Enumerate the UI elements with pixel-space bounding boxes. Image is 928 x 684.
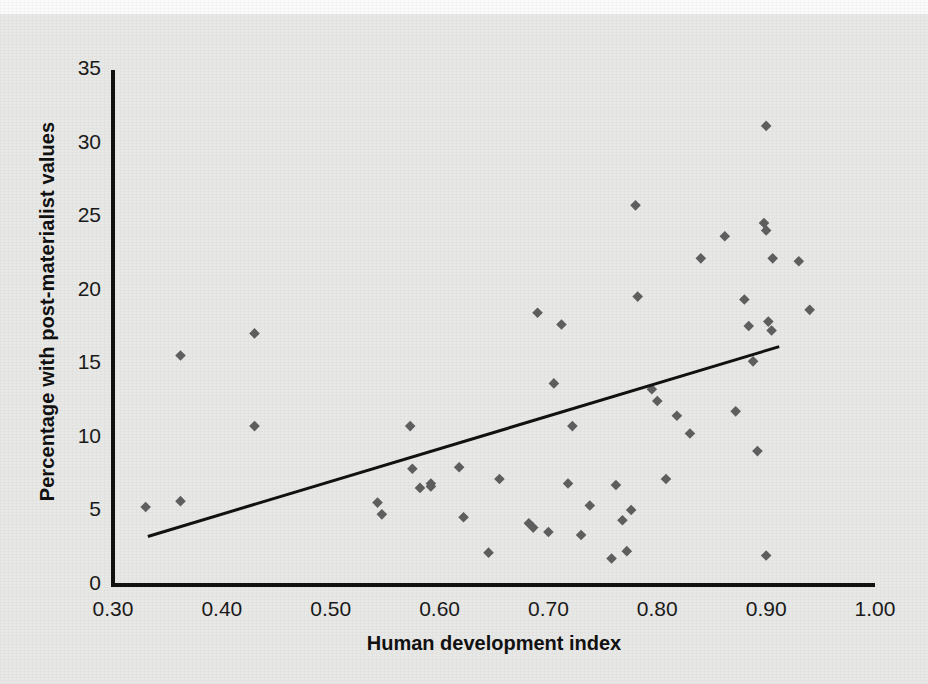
x-tick-label: 0.50: [286, 597, 376, 621]
data-point-marker: [804, 305, 815, 316]
data-point-marker: [652, 396, 663, 407]
data-point-marker: [549, 378, 560, 389]
data-point-marker: [630, 200, 641, 211]
data-point-marker: [696, 253, 707, 264]
x-tick-label: 0.40: [177, 597, 267, 621]
data-point-marker: [249, 421, 260, 432]
trend-line: [148, 347, 779, 537]
data-point-marker: [556, 319, 567, 330]
x-tick-label: 0.90: [721, 597, 811, 621]
data-point-marker: [405, 421, 416, 432]
data-point-marker: [661, 474, 672, 485]
data-points: [140, 121, 815, 564]
data-point-marker: [532, 307, 543, 318]
data-point-marker: [626, 505, 637, 516]
data-point-marker: [632, 291, 643, 302]
x-tick-label: 0.80: [612, 597, 702, 621]
axis-lines: [111, 70, 875, 585]
data-point-marker: [743, 321, 754, 332]
data-point-marker: [611, 480, 622, 491]
x-tick-label: 1.00: [830, 597, 920, 621]
data-point-marker: [175, 496, 186, 507]
scatter-plot-figure: 05101520253035 0.300.400.500.600.700.800…: [0, 0, 928, 684]
y-axis-title: Percentage with post-materialist values: [36, 97, 59, 527]
data-point-marker: [719, 231, 730, 242]
y-tick-label: 35: [41, 56, 101, 80]
data-point-marker: [483, 547, 494, 558]
x-tick-label: 0.30: [68, 597, 158, 621]
data-point-marker: [730, 406, 741, 417]
data-point-marker: [372, 497, 383, 508]
data-point-marker: [767, 253, 778, 264]
trend-line-segment: [148, 347, 779, 537]
data-point-marker: [543, 527, 554, 538]
data-point-marker: [249, 328, 260, 339]
data-point-marker: [672, 410, 683, 421]
data-point-marker: [617, 515, 628, 526]
data-point-marker: [407, 463, 418, 474]
data-point-marker: [622, 546, 633, 557]
data-point-marker: [377, 509, 388, 520]
data-point-marker: [454, 462, 465, 473]
data-point-marker: [175, 350, 186, 361]
data-point-marker: [563, 478, 574, 489]
y-tick-label: 0: [41, 571, 101, 595]
data-point-marker: [794, 256, 805, 267]
data-point-marker: [763, 316, 774, 327]
data-point-marker: [415, 483, 426, 494]
data-point-marker: [761, 121, 772, 132]
plot-canvas: [0, 0, 928, 684]
data-point-marker: [739, 294, 750, 305]
data-point-marker: [140, 502, 151, 513]
x-tick-label: 0.60: [395, 597, 485, 621]
data-point-marker: [606, 553, 617, 564]
x-axis-title: Human development index: [113, 632, 875, 655]
data-point-marker: [567, 421, 578, 432]
data-point-marker: [584, 500, 595, 511]
data-point-marker: [685, 428, 696, 439]
data-point-marker: [458, 512, 469, 523]
data-point-marker: [752, 446, 763, 457]
data-point-marker: [748, 356, 759, 367]
data-point-marker: [766, 325, 777, 336]
data-point-marker: [494, 474, 505, 485]
data-point-marker: [576, 530, 587, 541]
x-tick-label: 0.70: [503, 597, 593, 621]
data-point-marker: [761, 550, 772, 561]
